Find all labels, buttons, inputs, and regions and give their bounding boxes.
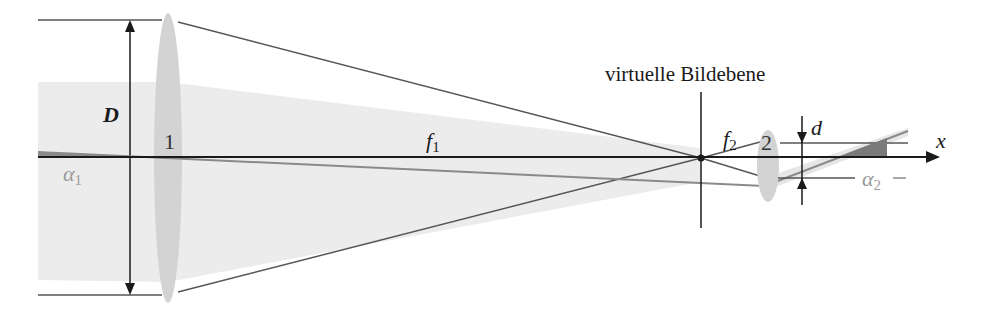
lens-1-label: 1 [164,131,175,153]
diameter-label: D [103,104,119,126]
image-plane-label: virtuelle Bildebene [605,64,765,85]
focal-point [698,155,705,162]
angle-alpha2-label: α2 [862,168,881,193]
axis-label: x [936,130,946,152]
offset-label: d [811,117,822,139]
lens-2-label: 2 [761,132,772,154]
focal-length-1-label: f1 [426,130,440,155]
focal-length-2-label: f2 [723,128,737,153]
angle-alpha1-label: α1 [63,163,82,188]
optical-diagram [0,0,983,315]
light-beam-incoming [38,82,700,282]
